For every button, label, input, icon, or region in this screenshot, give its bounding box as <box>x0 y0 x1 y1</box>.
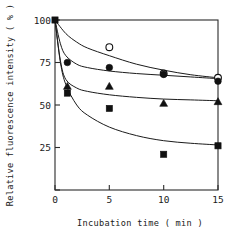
data-point-filled-triangle-2 <box>105 82 113 89</box>
data-point-filled-triangle-3 <box>160 99 168 106</box>
x-tick-labels: 0 5 10 15 <box>52 194 224 205</box>
fit-curve-filled-triangle <box>55 20 218 101</box>
y-tick-label-25: 25 <box>40 142 51 153</box>
fluorescence-decay-chart: 100 75 50 25 0 5 10 15 Incubation time (… <box>0 0 250 238</box>
plot-frame <box>55 20 218 190</box>
x-tick-label-10: 10 <box>158 194 170 205</box>
data-point-filled-square-4 <box>215 143 221 149</box>
data-point-filled-circle-2 <box>106 64 113 71</box>
x-axis-title: Incubation time ( min ) <box>77 218 203 228</box>
y-tick-labels: 100 75 50 25 <box>34 15 51 154</box>
chart-figure: 100 75 50 25 0 5 10 15 Incubation time (… <box>0 0 250 238</box>
data-point-filled-square-3 <box>161 151 167 157</box>
data-point-filled-square-0 <box>52 17 58 23</box>
x-axis-ticks <box>55 185 218 190</box>
data-point-filled-square-1 <box>64 90 70 96</box>
fit-curve-filled-circle <box>55 20 218 79</box>
data-point-filled-circle-3 <box>160 71 167 78</box>
data-markers-layer <box>52 17 222 158</box>
x-tick-label-5: 5 <box>106 194 112 205</box>
fit-curve-open-circle <box>55 20 218 78</box>
data-point-filled-square-2 <box>106 105 112 111</box>
y-axis-title: Relative fluorescence intensity ( % ) <box>5 4 15 207</box>
data-point-filled-circle-4 <box>215 78 222 85</box>
fit-curves-layer <box>55 20 218 145</box>
x-tick-label-15: 15 <box>212 194 223 205</box>
axis-frame-box <box>55 20 218 190</box>
fit-curve-filled-square <box>55 20 218 145</box>
y-axis-ticks <box>55 20 60 190</box>
y-tick-label-75: 75 <box>40 57 51 68</box>
y-tick-label-100: 100 <box>34 15 51 26</box>
y-tick-label-50: 50 <box>40 100 52 111</box>
data-point-open-circle-1 <box>106 44 113 51</box>
x-tick-label-0: 0 <box>52 194 58 205</box>
data-point-filled-circle-1 <box>64 59 71 66</box>
data-point-filled-triangle-4 <box>214 98 222 105</box>
